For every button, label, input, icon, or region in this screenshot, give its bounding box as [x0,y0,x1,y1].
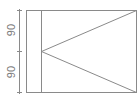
dimension-label-lower: 90 [5,66,17,78]
technical-drawing: 90 90 [0,0,139,102]
triangle-upper-edge [42,11,137,52]
dimension-label-upper: 90 [5,24,17,36]
outer-frame [27,11,137,93]
triangle-lower-edge [42,52,137,93]
